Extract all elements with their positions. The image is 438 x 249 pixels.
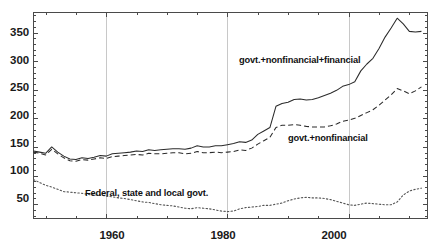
y-tick-label-300: 300 xyxy=(3,54,29,66)
y-tick-label-100: 100 xyxy=(3,164,29,176)
y-tick-label-200: 200 xyxy=(3,109,29,121)
series-annotation-govt-nonfinancial: govt.+nonfinancial xyxy=(288,133,368,143)
x-tick-label-2000: 2000 xyxy=(311,229,357,241)
x-tick-label-1980: 1980 xyxy=(200,229,246,241)
series-annotation-govt-nonfinancial-financial: govt.+nonfinancial+financial xyxy=(239,55,360,65)
chart-container: 350 300 250 200 150 100 50 1960 1980 200… xyxy=(0,0,438,249)
y-tick-label-50: 50 xyxy=(3,192,29,204)
series-annotation-federal-state-local-govt: Federal, state and local govt. xyxy=(85,188,208,198)
y-tick-label-150: 150 xyxy=(3,137,29,149)
y-tick-label-350: 350 xyxy=(3,26,29,38)
y-tick-label-250: 250 xyxy=(3,81,29,93)
x-tick-label-1960: 1960 xyxy=(89,229,135,241)
chart-plot-area xyxy=(0,0,438,249)
